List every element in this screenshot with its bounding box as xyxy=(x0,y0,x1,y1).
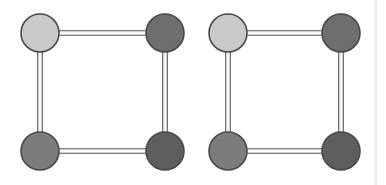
right-margin-line xyxy=(374,0,377,185)
graph-right-edges xyxy=(226,31,344,154)
node-bottom-right[interactable] xyxy=(146,132,184,170)
graph-left xyxy=(21,14,184,170)
node-top-right[interactable] xyxy=(322,14,360,52)
graph-left-nodes xyxy=(21,14,184,170)
graph-right-nodes xyxy=(209,14,360,170)
node-top-right[interactable] xyxy=(146,14,184,52)
node-top-left[interactable] xyxy=(209,14,247,52)
node-bottom-left[interactable] xyxy=(209,132,247,170)
node-top-left[interactable] xyxy=(21,14,59,52)
node-bottom-left[interactable] xyxy=(21,132,59,170)
graph-left-edges xyxy=(38,31,168,154)
graph-right xyxy=(209,14,360,170)
graph-figure xyxy=(0,0,386,185)
node-bottom-right[interactable] xyxy=(322,132,360,170)
graph-canvas xyxy=(0,0,386,185)
